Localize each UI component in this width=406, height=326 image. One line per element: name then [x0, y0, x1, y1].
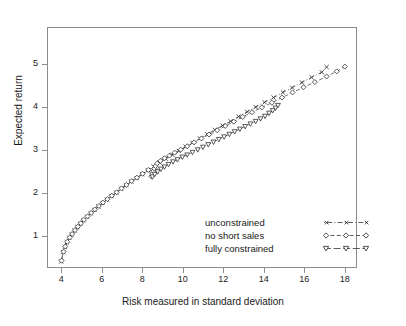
x-tick-mark: [142, 268, 143, 273]
y-tick-mark: [42, 107, 47, 108]
marker-triangle-down: [253, 119, 258, 123]
marker-diamond: [215, 128, 220, 133]
marker-diamond: [290, 90, 295, 95]
marker-diamond: [312, 80, 317, 85]
marker-triangle-down: [222, 135, 227, 139]
legend-item: fully constrained: [205, 242, 355, 255]
marker-x: [320, 70, 324, 74]
marker-diamond: [324, 74, 329, 79]
legend-label-unconstrained: unconstrained: [205, 216, 265, 229]
chart-figure: 4681012141618 12345 Risk measured in sta…: [0, 0, 406, 326]
marker-triangle-down: [216, 137, 221, 141]
marker-triangle-down: [201, 145, 206, 149]
x-tick-mark: [304, 268, 305, 273]
x-tick-label: 6: [90, 274, 114, 284]
marker-diamond: [192, 140, 197, 145]
x-tick-mark: [264, 268, 265, 273]
marker-diamond: [207, 132, 212, 137]
marker-x: [271, 95, 275, 99]
marker-triangle-down: [243, 125, 248, 129]
marker-x: [290, 86, 294, 90]
y-tick-mark: [42, 150, 47, 151]
y-tick-mark: [42, 64, 47, 65]
x-tick-label: 16: [292, 274, 316, 284]
marker-x: [300, 80, 304, 84]
marker-diamond: [185, 144, 190, 149]
legend-key-unconstrained-icon: [323, 216, 369, 229]
x-tick-label: 4: [49, 274, 73, 284]
legend-key-no-short-sales-icon: [323, 229, 369, 242]
y-tick-label: 4: [22, 101, 38, 111]
y-tick-label: 5: [22, 58, 38, 68]
marker-triangle-down: [227, 132, 232, 136]
marker-triangle-down: [195, 148, 200, 152]
x-tick-mark: [223, 268, 224, 273]
x-tick-label: 8: [130, 274, 154, 284]
marker-x: [254, 105, 258, 109]
x-tick-mark: [345, 268, 346, 273]
x-axis-title: Risk measured in standard deviation: [0, 296, 406, 307]
marker-x: [281, 90, 285, 94]
y-tick-mark: [42, 193, 47, 194]
marker-diamond: [342, 64, 347, 69]
x-tick-label: 14: [252, 274, 276, 284]
marker-x: [245, 110, 249, 114]
chart-legend: unconstrained no short sales: [205, 216, 355, 255]
marker-triangle-down: [237, 127, 242, 131]
legend-label-fully-constrained: fully constrained: [205, 242, 274, 255]
x-tick-mark: [61, 268, 62, 273]
marker-x: [325, 65, 329, 69]
marker-diamond: [301, 85, 306, 90]
x-tick-label: 12: [211, 274, 235, 284]
x-tick-label: 10: [171, 274, 195, 284]
marker-diamond: [250, 110, 255, 115]
marker-triangle-down: [258, 117, 263, 121]
marker-triangle-down: [248, 122, 253, 126]
marker-diamond: [240, 114, 245, 119]
marker-triangle-down: [185, 153, 190, 157]
x-tick-mark: [183, 268, 184, 273]
x-tick-label: 18: [333, 274, 357, 284]
marker-x: [263, 100, 267, 104]
legend-item: no short sales: [205, 229, 355, 242]
y-tick-mark: [42, 236, 47, 237]
marker-triangle-down: [206, 143, 211, 147]
y-tick-label: 2: [22, 187, 38, 197]
marker-triangle-down: [180, 155, 185, 159]
marker-triangle-down: [190, 150, 195, 154]
marker-triangle-down: [211, 140, 216, 144]
legend-label-no-short-sales: no short sales: [205, 229, 264, 242]
marker-diamond: [162, 156, 167, 161]
x-tick-mark: [102, 268, 103, 273]
series-fully-constrained: [150, 103, 280, 179]
y-tick-label: 3: [22, 144, 38, 154]
marker-diamond: [259, 105, 264, 110]
legend-item: unconstrained: [205, 216, 355, 229]
marker-triangle-down: [232, 130, 237, 134]
marker-diamond: [280, 95, 285, 100]
legend-key-fully-constrained-icon: [323, 242, 369, 255]
y-axis-title: Expected return: [13, 46, 24, 176]
marker-diamond: [334, 69, 339, 74]
y-tick-label: 1: [22, 230, 38, 240]
marker-diamond: [269, 100, 274, 105]
marker-x: [310, 75, 314, 79]
